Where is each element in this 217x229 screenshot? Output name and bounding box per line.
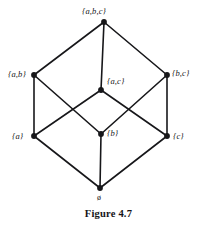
edge-abc-ab [34, 22, 104, 75]
figure-caption: Figure 4.7 [0, 208, 217, 219]
node-label-ab: {a,b} [8, 70, 26, 79]
node-a [31, 133, 37, 139]
hasse-diagram-svg [0, 0, 217, 229]
node-label-ac: {a,c} [107, 77, 124, 86]
node-label-bc: {b,c} [172, 69, 189, 78]
node-label-c: {c} [173, 132, 184, 141]
edge-abc-ac [101, 22, 104, 90]
node-label-abc: {a,b,c} [82, 7, 106, 16]
edge-abc-bc [104, 22, 167, 75]
edge-ab-b [34, 75, 101, 134]
edge-a-empty [34, 136, 100, 188]
figure-container: {a,b,c}{a,b}{a,c}{b,c}{a}{b}{c}ø Figure … [0, 0, 217, 229]
node-abc [101, 19, 107, 25]
node-c [164, 133, 170, 139]
edge-c-empty [100, 136, 167, 188]
node-empty [97, 185, 103, 191]
node-ac [98, 87, 104, 93]
node-label-a: {a} [12, 132, 23, 141]
node-ab [31, 72, 37, 78]
edge-b-empty [100, 134, 101, 188]
node-label-empty: ø [97, 194, 101, 202]
node-label-b: {b} [107, 129, 118, 138]
edge-group [34, 22, 167, 188]
node-bc [164, 72, 170, 78]
node-b [98, 131, 104, 137]
edge-ac-a [34, 90, 101, 136]
